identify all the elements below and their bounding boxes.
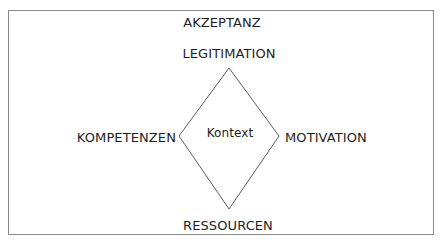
label-kontext: Kontext bbox=[207, 126, 254, 141]
title-akzeptanz: AKZEPTANZ bbox=[183, 15, 261, 30]
context-diamond bbox=[0, 0, 443, 245]
label-ressourcen: RESSOURCEN bbox=[183, 218, 273, 233]
label-motivation: MOTIVATION bbox=[285, 130, 367, 145]
label-kompetenzen: KOMPETENZEN bbox=[77, 130, 176, 145]
label-legitimation: LEGITIMATION bbox=[182, 46, 275, 61]
